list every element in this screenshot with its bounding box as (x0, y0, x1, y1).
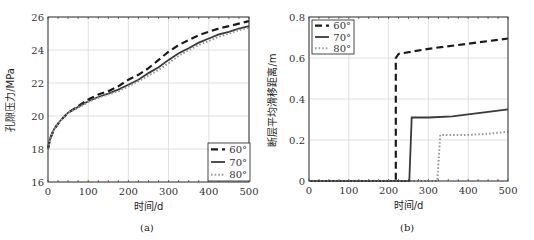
x-tick-label: 200 (119, 186, 138, 197)
x-tick-label: 500 (498, 185, 517, 196)
series-line-80deg (309, 132, 508, 181)
series-line-80deg (48, 28, 249, 149)
x-tick-label: 100 (79, 186, 98, 197)
caption-a: (a) (140, 222, 154, 233)
x-tick-label: 300 (159, 186, 178, 197)
x-tick-label: 0 (306, 185, 312, 196)
y-tick-label: 0.4 (289, 94, 305, 105)
figure-canvas: 010020030040050016182022242660°70°80°时间/… (0, 0, 534, 240)
legend-label: 60° (229, 144, 247, 155)
series-line-60deg (309, 39, 508, 182)
legend-label: 80° (229, 169, 247, 180)
y-tick-label: 22 (31, 78, 44, 89)
caption-b: (b) (400, 222, 414, 233)
y-axis-label: 断层平均滑移距离/m (266, 53, 278, 146)
legend-label: 80° (333, 43, 351, 54)
y-tick-label: 20 (31, 111, 44, 122)
x-tick-label: 100 (339, 185, 358, 196)
y-tick-label: 16 (31, 177, 44, 188)
chart-b-fault-slip: 010020030040050000.20.40.60.860°70°80°时间… (266, 12, 518, 212)
x-tick-label: 0 (45, 186, 51, 197)
series-line-60deg (48, 21, 249, 149)
legend-label: 70° (333, 32, 351, 43)
chart-a-pore-pressure: 010020030040050016182022242660°70°80°时间/… (4, 12, 259, 213)
x-tick-label: 400 (199, 186, 218, 197)
y-tick-label: 0.6 (289, 53, 305, 64)
x-tick-label: 500 (239, 186, 258, 197)
series-line-70deg (48, 26, 249, 149)
x-tick-label: 300 (419, 185, 438, 196)
x-tick-label: 200 (379, 185, 398, 196)
y-tick-label: 24 (31, 45, 44, 56)
series-line-70deg (309, 109, 508, 181)
y-tick-label: 0.2 (289, 135, 305, 146)
x-tick-label: 400 (459, 185, 478, 196)
legend: 60°70°80° (312, 20, 354, 54)
x-axis-label: 时间/d (134, 200, 164, 212)
y-tick-label: 18 (31, 144, 44, 155)
legend-label: 60° (333, 20, 351, 31)
y-axis-label: 孔隙压力/MPa (4, 68, 16, 132)
y-tick-label: 0 (299, 176, 305, 187)
y-tick-label: 26 (31, 12, 44, 23)
legend-label: 70° (229, 157, 247, 168)
legend: 60°70°80° (208, 143, 250, 181)
x-axis-label: 时间/d (394, 199, 424, 211)
y-tick-label: 0.8 (289, 12, 305, 23)
